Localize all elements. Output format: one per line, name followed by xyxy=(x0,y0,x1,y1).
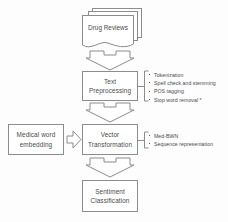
node-text-preprocessing-label: Text Preprocessing xyxy=(87,77,133,96)
annotation-vector-methods: Med-BWN Sequence representation xyxy=(148,132,213,149)
node-medical-word-embedding-label: Medical word embedding xyxy=(15,130,58,149)
node-drug-reviews: Drug Reviews xyxy=(82,8,144,50)
node-vector-transformation: Vector Transformation xyxy=(82,124,138,155)
node-drug-reviews-label: Drug Reviews xyxy=(88,24,128,33)
node-text-preprocessing: Text Preprocessing xyxy=(82,71,138,101)
list-item: Tokenization xyxy=(148,71,216,79)
document-wavy-bottom-icon xyxy=(82,38,134,50)
list-item: Spell check and stemming xyxy=(148,79,216,87)
annotation-preprocessing-steps: Tokenization Spell check and stemming PO… xyxy=(148,71,216,105)
arrow-vector-to-sentiment-icon xyxy=(84,157,136,178)
list-item: Stop word removal * xyxy=(148,96,216,104)
flowchart-canvas: Drug Reviews Text Preprocessing Tokeniza… xyxy=(0,0,228,222)
node-sentiment-classification-label: Sentiment Classification xyxy=(88,187,131,206)
arrow-preprocessing-to-vector-icon xyxy=(84,102,136,123)
node-vector-transformation-label: Vector Transformation xyxy=(86,130,134,149)
node-sentiment-classification: Sentiment Classification xyxy=(82,180,138,212)
node-medical-word-embedding: Medical word embedding xyxy=(8,124,64,155)
arrow-embedding-to-vector-icon xyxy=(66,130,82,149)
list-item: POS tagging xyxy=(148,87,216,95)
list-item: Sequence representation xyxy=(148,140,213,148)
arrow-source-to-preprocessing-icon xyxy=(84,50,136,71)
list-item: Med-BWN xyxy=(148,132,213,140)
